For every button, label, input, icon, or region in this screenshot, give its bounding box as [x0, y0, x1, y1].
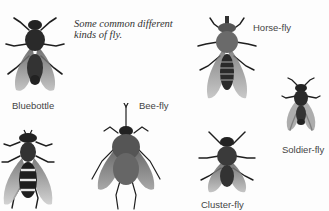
fly-illustration-page: Some common different kinds of fly. Blue…: [0, 0, 329, 211]
hover-fly-illustration: [0, 128, 56, 211]
soldier-fly-label: Soldier-fly: [282, 144, 324, 155]
caption-text: Some common different kinds of fly.: [74, 18, 194, 40]
bee-fly-label: Bee-fly: [139, 100, 169, 111]
cluster-fly-label: Cluster-fly: [201, 199, 244, 210]
horse-fly-label: Horse-fly: [253, 22, 291, 33]
bee-fly-illustration: [88, 103, 164, 211]
soldier-fly-illustration: [280, 76, 322, 136]
cluster-fly-illustration: [197, 130, 257, 194]
bluebottle-illustration: [2, 12, 68, 94]
bluebottle-label: Bluebottle: [12, 100, 54, 111]
horse-fly-illustration: [196, 14, 258, 100]
